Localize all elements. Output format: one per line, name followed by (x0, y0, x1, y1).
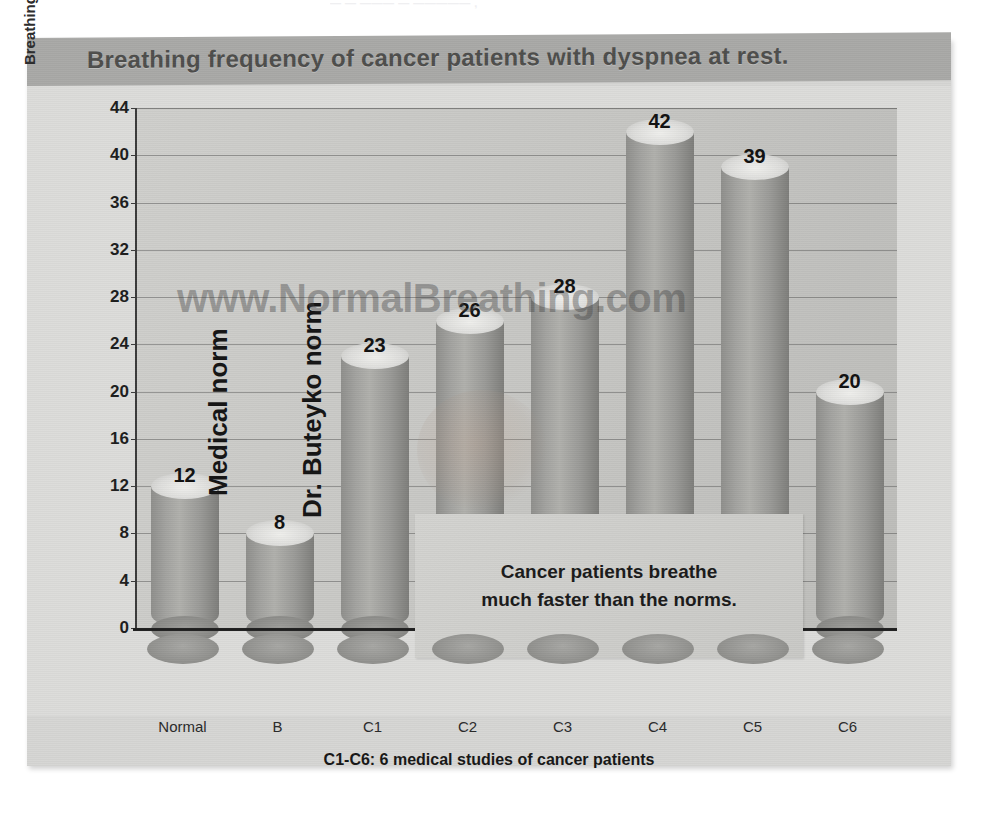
y-axis-tick-label: 0 (120, 618, 129, 638)
y-axis-tick-label: 44 (110, 98, 129, 118)
y-axis-tick-label: 36 (110, 192, 129, 212)
y-axis-tick-label: 40 (110, 145, 129, 165)
bar-base-shadow (812, 634, 884, 664)
bar-value-label: 28 (531, 275, 599, 298)
callout-line-1: Cancer patients breathe (501, 561, 717, 582)
gridline (137, 108, 897, 109)
bar-base-shadow (337, 634, 409, 664)
bar-base-shadow (527, 634, 599, 664)
callout-line-2: much faster than the norms. (481, 589, 737, 610)
y-axis-tick-mark (131, 155, 137, 156)
y-axis-tick-mark (131, 486, 137, 487)
annotation-buteyko-norm: Dr. Buteyko norm (297, 301, 328, 518)
x-axis-category-label: C2 (420, 718, 515, 735)
y-axis-tick-mark (131, 344, 137, 345)
bar-base-shadow (622, 634, 694, 664)
x-axis-category-label: C4 (610, 718, 705, 735)
y-axis-tick-label: 16 (110, 429, 129, 449)
plot-container: Breathing frequency, breaths/min 0481216… (27, 86, 951, 716)
bar-value-label: 20 (816, 370, 884, 393)
bar-value-label: 26 (436, 299, 504, 322)
clipped-header-text: — — ——— — ————— , (330, 0, 660, 9)
bar-value-label: 23 (341, 334, 409, 357)
x-axis-category-label: B (230, 718, 325, 735)
bar-base-shadow (717, 634, 789, 664)
y-axis-tick-label: 28 (110, 287, 129, 307)
y-axis-tick-mark (131, 250, 137, 251)
x-axis-category-label: Normal (135, 718, 230, 735)
x-axis-title: C1-C6: 6 medical studies of cancer patie… (27, 751, 951, 769)
y-axis-tick-label: 12 (110, 476, 129, 496)
bar-base-shadow (432, 634, 504, 664)
x-axis-category-label: C6 (800, 718, 895, 735)
x-axis-category-label: C5 (705, 718, 800, 735)
bar-body (151, 486, 219, 628)
bar-base-shadow (147, 634, 219, 664)
scanned-slide: Breathing frequency of cancer patients w… (27, 38, 951, 766)
bar: 20 (816, 392, 884, 628)
bar-base-shadow (242, 634, 314, 664)
y-axis-tick-label: 4 (120, 570, 129, 590)
x-axis-category-label: C3 (515, 718, 610, 735)
callout-text: Cancer patients breathe much faster than… (481, 558, 737, 613)
bar-body (246, 533, 314, 628)
bar: 8 (246, 533, 314, 628)
y-axis-tick-mark (131, 108, 137, 109)
y-axis-tick-label: 20 (110, 381, 129, 401)
y-axis-tick-mark (131, 581, 137, 582)
bar-value-label: 42 (626, 110, 694, 133)
bar-value-label: 39 (721, 145, 789, 168)
y-axis-tick-mark (131, 392, 137, 393)
y-axis-tick-mark (131, 533, 137, 534)
y-axis-tick-label: 32 (110, 239, 129, 259)
bar-body (341, 356, 409, 628)
bar-body (816, 392, 884, 628)
y-axis-tick-mark (131, 297, 137, 298)
y-axis-tick-mark (131, 203, 137, 204)
y-axis-tick-label: 24 (110, 334, 129, 354)
bar: 23 (341, 356, 409, 628)
y-axis-title: Breathing frequency, breaths/min (21, 0, 47, 156)
x-axis-category-label: C1 (325, 718, 420, 735)
y-axis-tick-label: 8 (120, 523, 129, 543)
bar: 12 (151, 486, 219, 628)
chart-title: Breathing frequency of cancer patients w… (87, 41, 937, 80)
annotation-medical-norm: Medical norm (203, 328, 234, 496)
y-axis-tick-mark (131, 439, 137, 440)
